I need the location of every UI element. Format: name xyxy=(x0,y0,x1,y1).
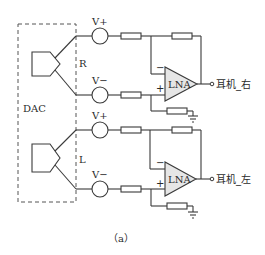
circuit-diagram: DAC R V+ V− xyxy=(0,0,265,255)
source-pos-label-left: V+ xyxy=(91,110,108,121)
output-terminal-left xyxy=(210,177,214,181)
plus-input-sign-right: + xyxy=(156,83,164,94)
voltage-source-neg-right xyxy=(92,87,108,103)
dac-output-symbol-right xyxy=(32,52,60,76)
resistor-input-pos-left xyxy=(121,186,141,192)
resistor-feedback-left xyxy=(172,127,192,133)
minus-input-sign-right: − xyxy=(156,62,164,73)
voltage-source-pos-right xyxy=(92,28,108,44)
minus-input-sign-left: − xyxy=(156,157,164,168)
ground-icon xyxy=(188,212,198,218)
channel-label-right: R xyxy=(79,58,87,69)
wire xyxy=(55,130,76,151)
wire xyxy=(55,36,76,58)
voltage-source-neg-left xyxy=(92,181,108,197)
channel-label-left: L xyxy=(79,154,86,165)
channel-right: R V+ V− LNA − xyxy=(32,16,251,122)
plus-input-sign-left: + xyxy=(156,178,164,189)
resistor-input-neg-right xyxy=(121,33,141,39)
wire xyxy=(55,70,76,95)
figure-caption: （a） xyxy=(108,233,134,244)
amp-label-right: LNA xyxy=(168,79,191,90)
resistor-input-pos-right xyxy=(121,92,141,98)
resistor-feedback-right xyxy=(172,33,192,39)
dac-output-symbol-left xyxy=(32,144,60,172)
source-pos-label-right: V+ xyxy=(91,16,108,27)
output-label-left: 耳机_左 xyxy=(216,173,251,186)
source-neg-label-left: V− xyxy=(91,169,108,180)
resistor-ground-right xyxy=(167,108,187,114)
amp-label-left: LNA xyxy=(168,174,191,185)
source-neg-label-right: V− xyxy=(91,75,108,86)
resistor-ground-left xyxy=(167,203,187,209)
dac-label: DAC xyxy=(23,103,46,114)
wire xyxy=(55,165,76,189)
output-terminal-right xyxy=(210,82,214,86)
ground-icon xyxy=(188,116,198,122)
output-label-right: 耳机_右 xyxy=(216,78,251,91)
voltage-source-pos-left xyxy=(92,122,108,138)
resistor-input-neg-left xyxy=(121,127,141,133)
